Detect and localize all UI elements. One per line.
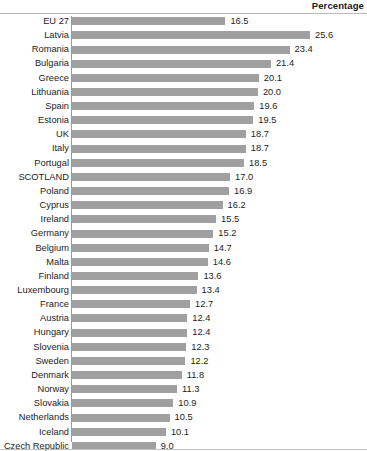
value-label: 12.4 — [192, 312, 210, 324]
bar-row: Slovakia10.9 — [0, 396, 367, 410]
bar-fill — [72, 329, 187, 337]
bar-row: Cyprus16.2 — [0, 198, 367, 212]
value-label: 11.3 — [182, 383, 199, 395]
value-label: 10.5 — [175, 411, 193, 423]
value-label: 18.7 — [251, 142, 269, 154]
bar-row: Romania23.4 — [0, 42, 367, 56]
value-label: 18.7 — [251, 128, 269, 140]
bar — [72, 329, 187, 337]
category-label: Hungary — [34, 326, 69, 338]
bar-row: Italy18.7 — [0, 141, 367, 155]
bar-fill — [72, 428, 166, 436]
bar-fill — [72, 244, 209, 252]
category-label: Iceland — [39, 426, 69, 438]
bar — [72, 371, 182, 379]
value-label: 10.9 — [178, 397, 196, 409]
bar — [72, 88, 258, 96]
bar-row: Slovenia12.3 — [0, 340, 367, 354]
value-label: 21.4 — [276, 57, 294, 69]
bar-row: France12.7 — [0, 297, 367, 311]
category-label: France — [40, 298, 69, 310]
bar-row: Hungary12.4 — [0, 325, 367, 339]
bar-fill — [72, 60, 271, 68]
bar — [72, 414, 170, 422]
bar — [72, 60, 271, 68]
bar-fill — [72, 116, 253, 124]
bar — [72, 187, 229, 195]
bar-row: Bulgaria21.4 — [0, 56, 367, 70]
bar-fill — [72, 371, 182, 379]
bar-fill — [72, 399, 173, 407]
bar-row: Lithuania20.0 — [0, 85, 367, 99]
value-label: 13.6 — [203, 270, 221, 282]
bar-fill — [72, 230, 213, 238]
bar-row: Poland16.9 — [0, 184, 367, 198]
bar — [72, 357, 185, 365]
bar-row: UK18.7 — [0, 127, 367, 141]
category-label: Latvia — [44, 29, 69, 41]
bar-fill — [72, 300, 190, 308]
bar — [72, 173, 230, 181]
bar-fill — [72, 314, 187, 322]
bar-row: Malta14.6 — [0, 255, 367, 269]
category-label: Norway — [37, 383, 69, 395]
value-label: 17.0 — [235, 171, 253, 183]
value-label: 12.7 — [195, 298, 213, 310]
category-label: SCOTLAND — [18, 171, 69, 183]
bar — [72, 46, 290, 54]
bar-fill — [72, 74, 259, 82]
bar-row: Germany15.2 — [0, 226, 367, 240]
bar-row: Estonia19.5 — [0, 113, 367, 127]
bar-fill — [72, 272, 198, 280]
bar-rows: EU 2716.5Latvia25.6Romania23.4Bulgaria21… — [0, 14, 367, 451]
bar-row: Ireland15.5 — [0, 212, 367, 226]
chart-bottom-divider — [0, 449, 367, 450]
bar — [72, 272, 198, 280]
bar-fill — [72, 145, 246, 153]
value-label: 23.4 — [295, 43, 313, 55]
bar-fill — [72, 201, 223, 209]
bar — [72, 300, 190, 308]
bar — [72, 74, 259, 82]
bar-row: Austria12.4 — [0, 311, 367, 325]
bar — [72, 399, 173, 407]
value-label: 11.8 — [187, 369, 204, 381]
bar-fill — [72, 357, 185, 365]
category-label: Spain — [45, 100, 69, 112]
bar-row: Iceland10.1 — [0, 425, 367, 439]
value-label: 16.9 — [234, 185, 252, 197]
category-label: Germany — [31, 227, 69, 239]
category-label: Lithuania — [31, 86, 69, 98]
bar — [72, 428, 166, 436]
bar-fill — [72, 17, 225, 25]
bar-row: Latvia25.6 — [0, 28, 367, 42]
bar — [72, 230, 213, 238]
bar — [72, 314, 187, 322]
bar-fill — [72, 31, 310, 39]
value-label: 14.7 — [214, 242, 232, 254]
category-label: Netherlands — [19, 411, 69, 423]
bar-fill — [72, 88, 258, 96]
category-label: Ireland — [41, 213, 69, 225]
bar-fill — [72, 173, 230, 181]
value-label: 16.5 — [230, 15, 248, 27]
bar — [72, 159, 244, 167]
bar-row: Greece20.1 — [0, 71, 367, 85]
bar-row: Denmark11.8 — [0, 368, 367, 382]
bar — [72, 116, 253, 124]
bar — [72, 102, 254, 110]
value-label: 15.2 — [218, 227, 236, 239]
bar-fill — [72, 258, 208, 266]
category-label: Denmark — [31, 369, 69, 381]
value-label: 15.5 — [221, 213, 239, 225]
bar-fill — [72, 159, 244, 167]
bar — [72, 130, 246, 138]
bar-row: EU 2716.5 — [0, 14, 367, 28]
value-label: 12.2 — [190, 355, 208, 367]
chart-header: Percentage — [0, 0, 367, 14]
bar-row: Spain19.6 — [0, 99, 367, 113]
category-label: Estonia — [38, 114, 69, 126]
category-label: Slovakia — [34, 397, 69, 409]
bar-row: Luxembourg13.4 — [0, 283, 367, 297]
chart-header-title: Percentage — [312, 0, 364, 11]
